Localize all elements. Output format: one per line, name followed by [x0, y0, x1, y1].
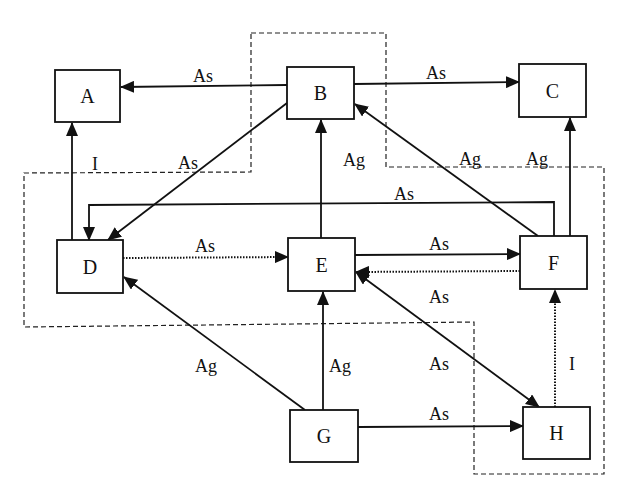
- label-g-to-h: As: [429, 404, 449, 424]
- edge-g-to-h: [358, 426, 523, 427]
- edge-f-to-e: [356, 271, 520, 272]
- label-d-to-e: As: [195, 236, 215, 256]
- label-e-to-b: Ag: [343, 150, 365, 170]
- label-g-to-e: Ag: [329, 356, 351, 376]
- label-b-to-a: As: [193, 66, 213, 86]
- label-f-to-b: Ag: [459, 149, 481, 169]
- label-e-to-f: As: [429, 234, 449, 254]
- diagram-canvas: As As I As Ag Ag Ag As As As As As Ag Ag…: [0, 0, 623, 494]
- node-f: F: [520, 236, 587, 289]
- node-g: G: [290, 410, 358, 462]
- node-d-label: D: [83, 256, 97, 278]
- node-h: H: [523, 407, 590, 459]
- node-d: D: [57, 240, 123, 293]
- node-b-label: B: [314, 82, 327, 104]
- node-b: B: [287, 67, 354, 119]
- edge-d-to-e: [123, 257, 288, 258]
- label-f-to-e: As: [429, 287, 449, 307]
- node-f-label: F: [548, 252, 559, 274]
- node-e-label: E: [315, 254, 327, 276]
- node-c-label: C: [546, 80, 559, 102]
- label-e-to-h: As: [429, 354, 449, 374]
- label-g-to-d: Ag: [195, 356, 217, 376]
- edge-g-to-d: [124, 277, 305, 410]
- edge-e-to-f: [355, 254, 520, 255]
- label-d-to-a: I: [92, 154, 98, 174]
- label-h-to-f: I: [569, 354, 575, 374]
- label-f-to-c: Ag: [526, 149, 548, 169]
- label-b-to-c: As: [426, 63, 446, 83]
- label-b-to-d: As: [178, 153, 198, 173]
- node-g-label: G: [317, 425, 331, 447]
- node-e: E: [288, 238, 355, 291]
- label-f-to-d: As: [394, 184, 414, 204]
- node-a-label: A: [80, 85, 95, 107]
- node-h-label: H: [549, 422, 563, 444]
- node-c: C: [519, 64, 586, 117]
- edge-f-to-b: [355, 104, 538, 236]
- node-a: A: [55, 70, 120, 122]
